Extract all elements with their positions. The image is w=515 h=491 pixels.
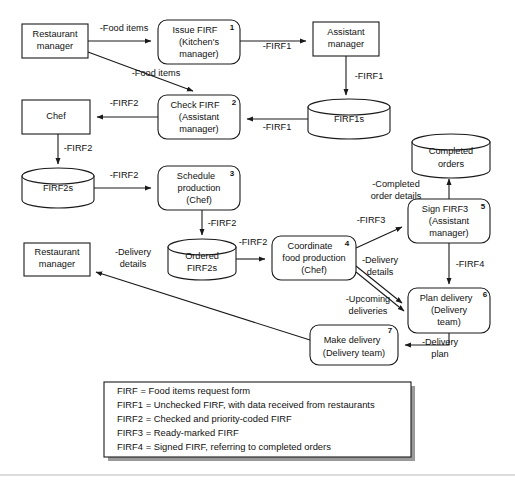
sign-firf3-number: 5: [481, 202, 486, 211]
flow-line-upcoming-deliveries: [356, 272, 404, 311]
make-delivery-line-2: (Delivery team): [323, 348, 385, 358]
restaurant-manager-bottom-line-1: Restaurant: [35, 247, 80, 257]
legend-line-3: FIRF2 = Checked and priority-coded FIRF: [117, 413, 292, 424]
schedule-production-number: 3: [230, 169, 235, 178]
make-delivery-number: 7: [388, 326, 393, 335]
flow-label-firf2-coordinate: -FIRF2: [239, 237, 268, 247]
flow-label-firf2-schedule: -FIRF2: [110, 170, 139, 180]
restaurant-manager-top-line-2: manager: [37, 41, 73, 51]
plan-delivery-line-3: team): [437, 317, 461, 327]
flow-label-upcoming-deliveries-line-1: -Upcoming: [346, 294, 390, 304]
firf1s-label: FIRF1s: [334, 114, 365, 124]
node-issue-firf[interactable]: Issue FIRF (Kitchen's manager) 1: [158, 20, 240, 64]
check-firf-line-3: manager): [179, 124, 218, 134]
schedule-production-line-1: Schedule: [177, 171, 215, 181]
flow-label-firf1-store: -FIRF1: [355, 71, 384, 81]
coordinate-line-1: Coordinate: [288, 241, 333, 251]
sign-firf3-line-3: manager): [429, 228, 468, 238]
coordinate-line-3: (Chef): [301, 265, 327, 275]
node-chef[interactable]: Chef: [22, 100, 90, 134]
flow-label-firf3-sign: -FIRF3: [357, 215, 386, 225]
completed-orders-line-1: Completed: [429, 146, 473, 156]
flow-label-firf1-check: -FIRF1: [263, 122, 292, 132]
completed-orders-line-2: orders: [438, 159, 464, 169]
issue-firf-line-1: Issue FIRF: [173, 25, 218, 35]
flow-label-firf2-ordered: -FIRF2: [208, 218, 237, 228]
node-schedule-production[interactable]: Schedule production (Chef) 3: [158, 166, 240, 210]
plan-delivery-number: 6: [483, 290, 488, 299]
node-make-delivery[interactable]: Make delivery (Delivery team) 7: [310, 325, 398, 365]
node-assistant-manager[interactable]: Assistant manager: [313, 22, 379, 56]
node-completed-orders[interactable]: Completed orders: [412, 134, 490, 178]
flow-label-delivery-plan-line-1: -Delivery: [422, 337, 459, 347]
plan-delivery-line-1: Plan delivery: [420, 293, 473, 303]
assistant-manager-line-2: manager: [328, 39, 364, 49]
ordered-firf2s-line-1: Ordered: [185, 251, 219, 261]
legend-line-1: FIRF = Food items request form: [117, 385, 250, 396]
legend-panel: FIRF = Food items request form FIRF1 = U…: [104, 382, 415, 461]
make-delivery-line-1: Make delivery: [324, 335, 381, 345]
schedule-production-line-2: production: [178, 183, 221, 193]
plan-delivery-line-2: (Delivery: [431, 305, 468, 315]
flow-label-delivery-details-plan-line-2: details: [367, 267, 394, 277]
node-restaurant-manager-top[interactable]: Restaurant manager: [22, 24, 88, 58]
legend-line-5: FIRF4 = Signed FIRF, referring to comple…: [117, 441, 331, 452]
issue-firf-line-2: (Kitchen's: [179, 37, 219, 47]
node-firf1s[interactable]: FIRF1s: [308, 99, 390, 139]
sign-firf3-line-2: (Assistant: [429, 216, 470, 226]
flow-label-delivery-details-plan-line-1: -Delivery: [362, 255, 399, 265]
node-sign-firf3[interactable]: Sign FIRF3 (Assistant manager) 5: [408, 199, 490, 243]
flow-label-firf1-assistant: -FIRF1: [263, 41, 292, 51]
chef-label: Chef: [46, 111, 66, 121]
flow-label-upcoming-deliveries-line-2: deliveries: [349, 306, 388, 316]
coordinate-line-2: food production: [282, 253, 345, 263]
check-firf-line-2: (Assistant: [179, 112, 220, 122]
schedule-production-line-3: (Chef): [186, 195, 212, 205]
flow-label-delivery-details-restaurant-line-2: details: [120, 259, 147, 269]
dfd-diagram-root: Restaurant manager Issue FIRF (Kitchen's…: [0, 0, 515, 491]
flow-line-firf3-sign: [356, 227, 402, 248]
node-ordered-firf2s[interactable]: Ordered FIRF2s: [168, 239, 236, 280]
node-coordinate-food-production[interactable]: Coordinate food production (Chef) 4: [272, 236, 356, 280]
flow-label-food-items-1: -Food items: [100, 23, 149, 33]
node-restaurant-manager-bottom[interactable]: Restaurant manager: [24, 243, 90, 276]
firf2s-label: FIRF2s: [43, 183, 74, 193]
check-firf-line-1: Check FIRF: [170, 100, 219, 110]
coordinate-number: 4: [345, 239, 350, 248]
assistant-manager-line-1: Assistant: [327, 27, 365, 37]
node-check-firf[interactable]: Check FIRF (Assistant manager) 2: [158, 95, 240, 139]
sign-firf3-line-1: Sign FIRF3: [422, 204, 468, 214]
flow-label-completed-order-details-line-1: -Completed: [372, 179, 420, 189]
flow-label-delivery-details-restaurant-line-1: -Delivery: [115, 247, 152, 257]
flow-label-firf4: -FIRF4: [456, 259, 485, 269]
flow-line-delivery-details-restaurant: [96, 272, 310, 340]
dfd-canvas: Restaurant manager Issue FIRF (Kitchen's…: [0, 0, 515, 491]
flow-label-completed-order-details-line-2: order details: [371, 191, 422, 201]
issue-firf-line-3: manager): [179, 49, 218, 59]
flow-label-delivery-plan-line-2: plan: [431, 349, 448, 359]
issue-firf-number: 1: [230, 23, 235, 32]
legend-line-4: FIRF3 = Ready-marked FIRF: [117, 427, 239, 438]
flow-label-firf2-chef: -FIRF2: [110, 98, 139, 108]
restaurant-manager-top-line-1: Restaurant: [33, 29, 78, 39]
node-firf2s[interactable]: FIRF2s: [22, 168, 94, 208]
ordered-firf2s-line-2: FIRF2s: [187, 263, 218, 273]
check-firf-number: 2: [232, 98, 237, 107]
legend-line-2: FIRF1 = Unchecked FIRF, with data receiv…: [117, 399, 375, 410]
node-plan-delivery[interactable]: Plan delivery (Delivery team) 6: [408, 288, 490, 333]
flow-label-food-items-2: -Food items: [132, 68, 181, 78]
restaurant-manager-bottom-line-2: manager: [39, 259, 75, 269]
flow-label-firf2-store: -FIRF2: [64, 143, 93, 153]
